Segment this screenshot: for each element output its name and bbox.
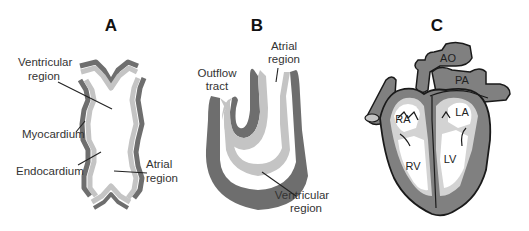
label-c-ra: RA (395, 113, 411, 125)
panel-c: C AO PA RA LA RV LV (365, 16, 510, 215)
label-b-outflow-1: Outflow (198, 67, 238, 79)
panel-c-title: C (431, 16, 443, 35)
label-a-endocardium: Endocardium (16, 165, 84, 177)
panel-a-title: A (105, 16, 117, 35)
panel-b-title: B (251, 16, 263, 35)
panel-a: A Ventricular region Myocardium Endocard… (16, 16, 178, 208)
label-a-myocardium: Myocardium (22, 128, 85, 140)
label-c-la: LA (455, 106, 469, 118)
label-c-ao: AO (440, 52, 456, 64)
label-b-ventricular-2: region (290, 202, 322, 214)
heart-development-figure: A Ventricular region Myocardium Endocard… (0, 0, 529, 231)
vena-cava-opening (365, 114, 379, 122)
label-b-atrial-2: region (268, 53, 300, 65)
label-c-rv: RV (405, 160, 421, 172)
label-a-ventricular-1: Ventricular (18, 56, 73, 68)
label-a-ventricular-2: region (28, 70, 60, 82)
label-c-pa: PA (455, 74, 470, 86)
label-a-atrial-2: region (146, 172, 178, 184)
label-b-outflow-2: tract (206, 80, 229, 92)
label-a-atrial-1: Atrial (146, 158, 172, 170)
leader-b-atrial (276, 68, 278, 82)
label-c-lv: LV (444, 153, 457, 165)
label-b-atrial-1: Atrial (271, 40, 297, 52)
loop-inner-myocardium (230, 69, 260, 138)
label-b-ventricular-1: Ventricular (275, 189, 330, 201)
panel-b: B Outflow tract Atrial region Ventricula… (198, 16, 330, 214)
